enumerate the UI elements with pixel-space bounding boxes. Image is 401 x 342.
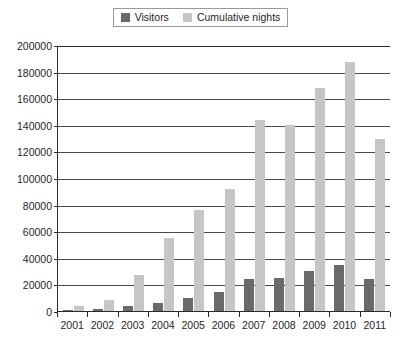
x-tick-mark bbox=[57, 312, 58, 317]
x-tick-mark bbox=[87, 312, 88, 317]
y-tick-mark bbox=[54, 179, 58, 180]
y-tick-mark bbox=[54, 46, 58, 47]
bar-cumulative-nights-2007 bbox=[255, 120, 265, 311]
bar-chart-figure: Visitors Cumulative nights 0200004000060… bbox=[0, 0, 401, 342]
bar-group bbox=[58, 46, 88, 311]
x-tick-label: 2001 bbox=[57, 319, 87, 332]
bar-cumulative-nights-2008 bbox=[285, 125, 295, 311]
x-tick-mark bbox=[118, 312, 119, 317]
bar-group bbox=[300, 46, 330, 311]
x-tick-label: 2005 bbox=[178, 319, 208, 332]
bar-group bbox=[179, 46, 209, 311]
y-tick-mark bbox=[54, 206, 58, 207]
bar-visitors-2004 bbox=[153, 303, 163, 311]
x-tick-label: 2006 bbox=[208, 319, 238, 332]
bar-cumulative-nights-2011 bbox=[375, 139, 385, 311]
y-tick-mark bbox=[54, 73, 58, 74]
bar-visitors-2008 bbox=[274, 278, 284, 311]
legend-swatch-visitors bbox=[121, 13, 130, 22]
bar-group bbox=[269, 46, 299, 311]
bar-visitors-2009 bbox=[304, 271, 314, 311]
legend-entry-visitors: Visitors bbox=[121, 11, 169, 23]
bar-group bbox=[239, 46, 269, 311]
bar-visitors-2007 bbox=[244, 279, 254, 311]
y-tick-label: 0 bbox=[0, 307, 52, 317]
x-axis-ticks bbox=[57, 312, 390, 317]
x-tick-mark bbox=[360, 312, 361, 317]
x-tick-mark bbox=[178, 312, 179, 317]
y-tick-label: 180000 bbox=[0, 68, 52, 78]
bar-group bbox=[360, 46, 390, 311]
x-tick-label: 2003 bbox=[118, 319, 148, 332]
y-tick-mark bbox=[54, 152, 58, 153]
y-tick-label: 40000 bbox=[0, 254, 52, 264]
x-tick-label: 2007 bbox=[239, 319, 269, 332]
bar-groups bbox=[58, 46, 390, 311]
y-tick-label: 100000 bbox=[0, 174, 52, 184]
y-tick-mark bbox=[54, 99, 58, 100]
y-tick-label: 140000 bbox=[0, 121, 52, 131]
x-tick-label: 2010 bbox=[329, 319, 359, 332]
bar-visitors-2006 bbox=[214, 292, 224, 311]
y-tick-mark bbox=[54, 126, 58, 127]
legend-entry-cumulative-nights: Cumulative nights bbox=[183, 11, 280, 23]
bar-cumulative-nights-2004 bbox=[164, 238, 174, 311]
y-tick-label: 20000 bbox=[0, 280, 52, 290]
x-tick-label: 2008 bbox=[269, 319, 299, 332]
x-tick-label: 2002 bbox=[87, 319, 117, 332]
bar-cumulative-nights-2002 bbox=[104, 300, 114, 311]
x-tick-label: 2009 bbox=[299, 319, 329, 332]
bar-cumulative-nights-2006 bbox=[225, 189, 235, 311]
x-tick-mark bbox=[269, 312, 270, 317]
x-axis-labels: 2001200220032004200520062007200820092010… bbox=[57, 319, 390, 332]
y-tick-mark bbox=[54, 259, 58, 260]
x-tick-label: 2004 bbox=[148, 319, 178, 332]
x-tick-mark bbox=[208, 312, 209, 317]
chart-legend: Visitors Cumulative nights bbox=[0, 8, 401, 27]
x-tick-mark bbox=[148, 312, 149, 317]
legend-swatch-cumulative-nights bbox=[183, 13, 192, 22]
bar-cumulative-nights-2005 bbox=[194, 210, 204, 311]
bar-cumulative-nights-2001 bbox=[74, 306, 84, 311]
y-tick-label: 60000 bbox=[0, 227, 52, 237]
plot-area bbox=[57, 46, 390, 312]
bar-group bbox=[330, 46, 360, 311]
y-tick-mark bbox=[54, 232, 58, 233]
y-tick-label: 160000 bbox=[0, 94, 52, 104]
bar-visitors-2001 bbox=[63, 310, 73, 311]
bar-visitors-2011 bbox=[364, 279, 374, 311]
bar-visitors-2003 bbox=[123, 306, 133, 311]
bar-cumulative-nights-2010 bbox=[345, 62, 355, 311]
bar-cumulative-nights-2009 bbox=[315, 88, 325, 311]
x-tick-mark bbox=[239, 312, 240, 317]
legend-label-cumulative-nights: Cumulative nights bbox=[197, 11, 280, 23]
y-tick-mark bbox=[54, 285, 58, 286]
x-tick-label: 2011 bbox=[360, 319, 390, 332]
bar-group bbox=[149, 46, 179, 311]
y-tick-label: 200000 bbox=[0, 41, 52, 51]
legend-box: Visitors Cumulative nights bbox=[113, 8, 289, 27]
bar-visitors-2005 bbox=[183, 298, 193, 311]
x-tick-mark bbox=[390, 312, 391, 317]
x-tick-mark bbox=[299, 312, 300, 317]
x-tick-mark bbox=[329, 312, 330, 317]
bar-group bbox=[88, 46, 118, 311]
bar-visitors-2010 bbox=[334, 265, 344, 311]
bar-cumulative-nights-2003 bbox=[134, 275, 144, 311]
legend-label-visitors: Visitors bbox=[135, 11, 169, 23]
y-tick-label: 120000 bbox=[0, 147, 52, 157]
bar-group bbox=[118, 46, 148, 311]
bar-group bbox=[209, 46, 239, 311]
bar-visitors-2002 bbox=[93, 309, 103, 311]
y-tick-label: 80000 bbox=[0, 201, 52, 211]
